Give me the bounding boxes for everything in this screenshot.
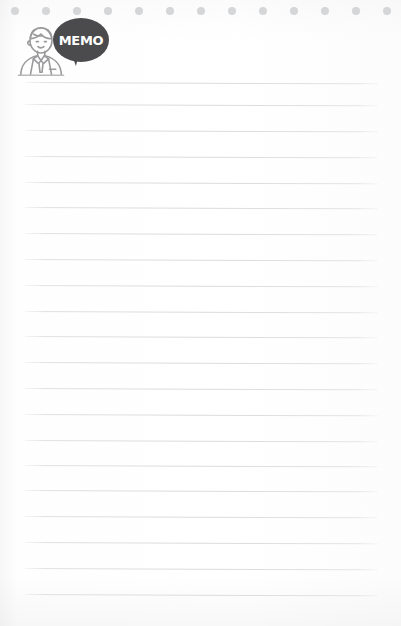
memo-label: MEMO (53, 18, 109, 62)
memo-speech-bubble: MEMO (53, 18, 109, 68)
rule-line[interactable] (25, 568, 378, 570)
rule-line[interactable] (25, 285, 378, 287)
rule-line[interactable] (25, 311, 378, 313)
rule-line[interactable] (25, 82, 378, 84)
rule-line[interactable] (25, 336, 378, 338)
rule-line[interactable] (25, 465, 378, 467)
rule-line[interactable] (25, 542, 378, 544)
memo-header-illustration: MEMO (16, 18, 126, 80)
rule-line[interactable] (25, 440, 378, 442)
rule-line[interactable] (25, 156, 378, 158)
rule-line[interactable] (25, 233, 378, 235)
rule-line[interactable] (25, 362, 378, 364)
rule-line[interactable] (25, 516, 378, 518)
rule-line[interactable] (25, 259, 378, 261)
rule-line[interactable] (25, 414, 378, 416)
ruled-lines-area[interactable] (0, 0, 401, 626)
rule-line[interactable] (25, 182, 378, 184)
memo-notepad-page: MEMO (0, 0, 401, 626)
rule-line[interactable] (25, 104, 378, 106)
rule-line[interactable] (25, 130, 378, 132)
rule-line[interactable] (25, 207, 378, 209)
rule-line[interactable] (25, 594, 378, 596)
rule-line[interactable] (25, 388, 378, 390)
rule-line[interactable] (25, 490, 378, 492)
